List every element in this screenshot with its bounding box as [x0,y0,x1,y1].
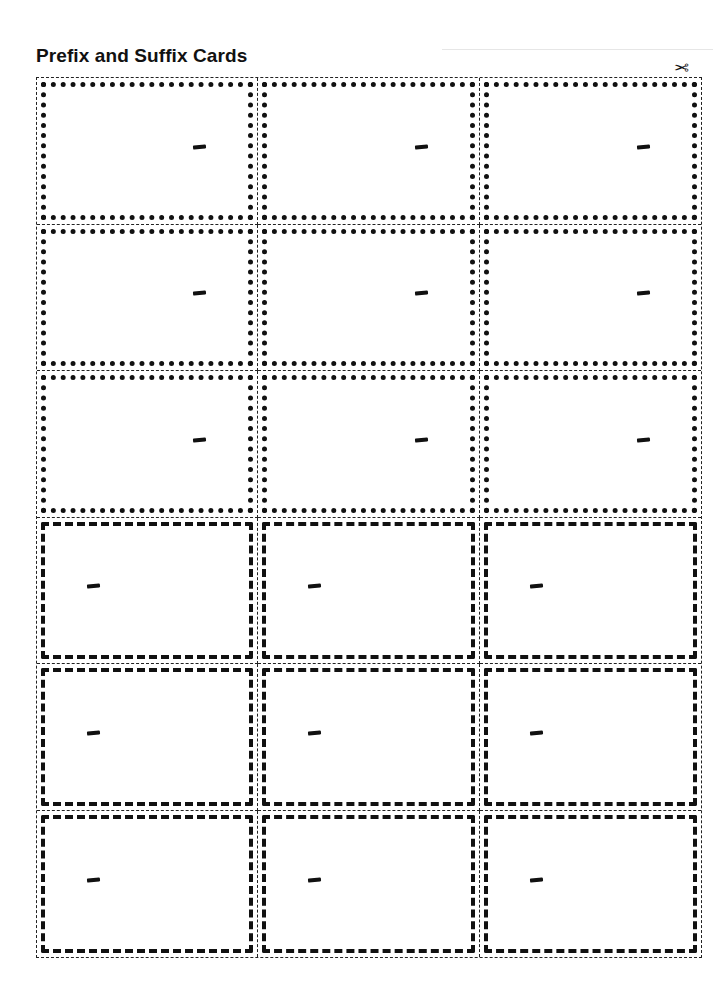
card-grid [37,78,701,957]
card-cell [37,518,258,665]
card-cell [258,225,479,372]
hyphen-mark [637,144,650,149]
card-cell [480,664,701,811]
card-cell [258,518,479,665]
card-cell [480,371,701,518]
suffix-card [262,82,474,220]
hyphen-mark [308,730,321,735]
hyphen-mark [87,730,100,735]
hyphen-mark [193,291,206,296]
prefix-card [262,815,474,954]
card-cell [37,78,258,225]
hyphen-mark [193,144,206,149]
hyphen-mark [87,877,100,882]
hyphen-mark [529,730,542,735]
hyphen-mark [637,437,650,442]
page-title: Prefix and Suffix Cards [36,45,247,67]
hyphen-mark [414,291,427,296]
hyphen-mark [529,584,542,589]
suffix-card [484,229,697,367]
card-cell [37,811,258,958]
prefix-card [262,522,474,660]
suffix-card [262,375,474,513]
card-cell [37,225,258,372]
prefix-card [484,668,697,806]
prefix-card [262,668,474,806]
suffix-card [262,229,474,367]
hyphen-mark [193,437,206,442]
card-cell [480,811,701,958]
hyphen-mark [308,584,321,589]
suffix-card [41,229,253,367]
card-cell [37,371,258,518]
suffix-card [484,82,697,220]
card-cell [258,811,479,958]
hyphen-mark [414,144,427,149]
card-cell [480,225,701,372]
hyphen-mark [637,291,650,296]
suffix-card [41,82,253,220]
hyphen-mark [414,437,427,442]
top-rule [442,49,713,50]
card-cell [480,518,701,665]
card-cell [37,664,258,811]
card-cell [258,78,479,225]
prefix-card [41,815,253,954]
hyphen-mark [308,877,321,882]
card-cell [258,371,479,518]
prefix-card [41,522,253,660]
cut-sheet [36,77,702,958]
card-cell [258,664,479,811]
suffix-card [484,375,697,513]
prefix-card [484,815,697,954]
prefix-card [484,522,697,660]
prefix-card [41,668,253,806]
card-cell [480,78,701,225]
scissors-icon: ✂ [674,58,689,76]
suffix-card [41,375,253,513]
hyphen-mark [87,584,100,589]
hyphen-mark [529,877,542,882]
